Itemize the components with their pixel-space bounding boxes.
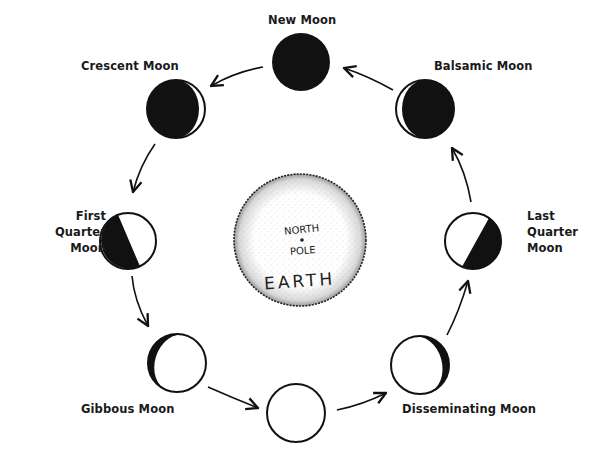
arrow-gibbous-to-full xyxy=(208,387,258,408)
label-crescent-moon: Crescent Moon xyxy=(81,58,179,74)
label-first-quarter-line2: Quarter xyxy=(40,224,106,240)
label-first-quarter-moon: First Quarter Moon xyxy=(40,208,106,256)
moon-gibbous xyxy=(140,326,206,392)
arrow-crescent-to-first-quarter xyxy=(133,144,155,192)
label-gibbous-moon: Gibbous Moon xyxy=(81,401,174,417)
moon-new xyxy=(272,33,330,91)
moon-crescent xyxy=(147,80,205,138)
label-last-quarter-line1: Last xyxy=(527,208,578,224)
earth-label-pole: POLE xyxy=(290,244,317,257)
label-first-quarter-line1: First xyxy=(40,208,106,224)
arrow-new-to-crescent xyxy=(211,67,263,86)
label-balsamic-moon: Balsamic Moon xyxy=(434,58,533,74)
label-new-moon: New Moon xyxy=(268,12,336,28)
label-last-quarter-line3: Moon xyxy=(527,240,578,256)
moon-balsamic xyxy=(396,80,454,138)
arrow-balsamic-to-new xyxy=(344,68,393,90)
arrow-disseminating-to-last-quarter xyxy=(447,281,468,335)
label-last-quarter-moon: Last Quarter Moon xyxy=(527,208,578,256)
moon-last-quarter xyxy=(445,213,501,269)
arrow-full-to-disseminating xyxy=(337,393,386,410)
earth: NORTH POLE EARTH xyxy=(234,174,366,306)
moon-disseminating xyxy=(391,329,456,394)
label-last-quarter-line2: Quarter xyxy=(527,224,578,240)
arrow-last-quarter-to-balsamic xyxy=(452,148,471,202)
arrow-first-quarter-to-gibbous xyxy=(132,276,148,326)
label-first-quarter-line3: Moon xyxy=(40,240,106,256)
north-pole-dot xyxy=(300,238,304,242)
moon-first-quarter xyxy=(100,213,156,269)
moon-full xyxy=(267,384,325,442)
label-disseminating-moon: Disseminating Moon xyxy=(402,401,536,417)
